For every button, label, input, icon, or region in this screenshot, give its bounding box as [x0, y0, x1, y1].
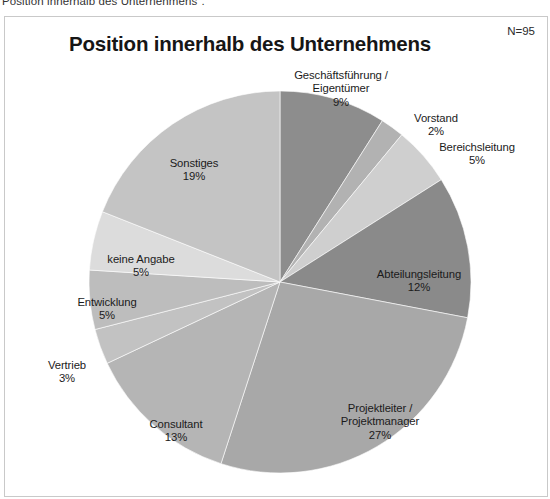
pie-label-percent: 5% [88, 266, 194, 280]
pie-label-bereichsleitung: Bereichsleitung 5% [421, 127, 533, 181]
pie-label-sonstiges: Sonstiges 19% [148, 143, 240, 197]
pie-label-text: Bereichsleitung [439, 141, 515, 153]
pie-label-text: keine Angabe [107, 253, 174, 265]
pie-label-geschaeftsfuehrung-eigentuemer: Geschäftsführung / Eigentümer 9% [271, 55, 411, 123]
chart-frame: Position innerhalb des Unternehmens N=95… [4, 16, 548, 497]
pie-label-percent: 27% [317, 429, 443, 443]
pie-label-abteilungsleitung: Abteilungsleitung 12% [363, 254, 475, 308]
pie-label-percent: 5% [421, 154, 533, 168]
pie-label-consultant: Consultant 13% [129, 404, 223, 458]
pie-label-projektleiter-projektmanager: Projektleiter / Projektmanager 27% [317, 388, 443, 456]
pie-label-text: Consultant [149, 418, 202, 430]
pie-label-percent: 5% [56, 309, 158, 323]
pie-label-percent: 3% [27, 372, 107, 386]
pie-label-text: Projektleiter / Projektmanager [341, 402, 419, 428]
pie-label-vertrieb: Vertrieb 3% [27, 345, 107, 399]
pie-label-percent: 13% [129, 431, 223, 445]
clipped-document-caption: Position innerhalb des Unternehmens". [2, 0, 205, 7]
pie-label-text: Entwicklung [77, 296, 136, 308]
pie-label-percent: 9% [271, 96, 411, 110]
pie-label-text: Vertrieb [48, 359, 86, 371]
pie-label-keine-angabe: keine Angabe 5% [88, 239, 194, 293]
pie-label-text: Geschäftsführung / Eigentümer [294, 69, 388, 95]
pie-label-text: Vorstand [414, 112, 458, 124]
pie-label-percent: 12% [363, 281, 475, 295]
pie-label-text: Abteilungsleitung [377, 268, 461, 280]
pie-label-text: Sonstiges [170, 157, 219, 169]
pie-label-percent: 19% [148, 170, 240, 184]
